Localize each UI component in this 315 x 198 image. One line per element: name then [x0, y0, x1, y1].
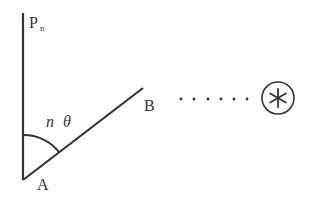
line-AB	[23, 88, 143, 180]
label-angle-theta: θ	[63, 113, 71, 130]
label-P: P	[29, 14, 38, 31]
geometry-diagram: P n n θ A B	[0, 0, 315, 198]
circled-asterisk-icon	[262, 82, 294, 114]
ellipsis-dots	[180, 98, 249, 101]
label-P-subscript: n	[40, 23, 45, 33]
label-A: A	[37, 176, 49, 193]
label-B: B	[144, 97, 155, 114]
label-angle-n: n	[46, 113, 54, 130]
angle-arc	[23, 135, 59, 152]
